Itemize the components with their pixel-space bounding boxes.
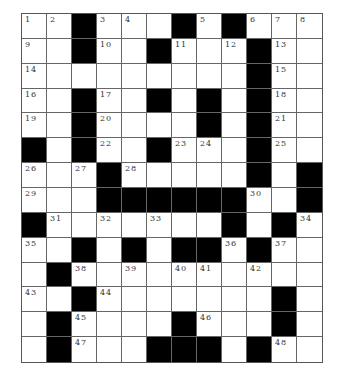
grid-cell[interactable] xyxy=(122,337,147,362)
grid-cell[interactable]: 9 xyxy=(22,39,47,64)
grid-cell[interactable]: 7 xyxy=(272,14,297,39)
grid-cell[interactable] xyxy=(172,287,197,312)
grid-cell[interactable]: 2 xyxy=(47,14,72,39)
grid-cell[interactable] xyxy=(222,263,247,288)
grid-cell[interactable] xyxy=(147,113,172,138)
grid-cell[interactable] xyxy=(222,89,247,114)
grid-cell[interactable] xyxy=(247,213,272,238)
grid-cell[interactable] xyxy=(122,64,147,89)
grid-cell[interactable]: 13 xyxy=(272,39,297,64)
grid-cell[interactable] xyxy=(147,312,172,337)
grid-cell[interactable]: 14 xyxy=(22,64,47,89)
grid-cell[interactable] xyxy=(22,337,47,362)
grid-cell[interactable]: 30 xyxy=(247,188,272,213)
grid-cell[interactable] xyxy=(222,287,247,312)
grid-cell[interactable] xyxy=(172,113,197,138)
grid-cell[interactable] xyxy=(122,287,147,312)
grid-cell[interactable]: 39 xyxy=(122,263,147,288)
grid-cell[interactable] xyxy=(272,263,297,288)
grid-cell[interactable]: 25 xyxy=(272,138,297,163)
grid-cell[interactable]: 36 xyxy=(222,238,247,263)
grid-cell[interactable]: 27 xyxy=(72,163,97,188)
grid-cell[interactable]: 47 xyxy=(72,337,97,362)
grid-cell[interactable] xyxy=(222,163,247,188)
grid-cell[interactable] xyxy=(147,238,172,263)
grid-cell[interactable]: 34 xyxy=(297,213,322,238)
grid-cell[interactable] xyxy=(122,138,147,163)
grid-cell[interactable] xyxy=(72,64,97,89)
grid-cell[interactable] xyxy=(297,138,322,163)
grid-cell[interactable] xyxy=(297,238,322,263)
grid-cell[interactable]: 6 xyxy=(247,14,272,39)
grid-cell[interactable]: 5 xyxy=(197,14,222,39)
grid-cell[interactable]: 44 xyxy=(97,287,122,312)
grid-cell[interactable] xyxy=(222,64,247,89)
grid-cell[interactable]: 22 xyxy=(97,138,122,163)
grid-cell[interactable] xyxy=(97,263,122,288)
grid-cell[interactable] xyxy=(47,89,72,114)
grid-cell[interactable]: 35 xyxy=(22,238,47,263)
grid-cell[interactable] xyxy=(222,138,247,163)
grid-cell[interactable] xyxy=(47,188,72,213)
grid-cell[interactable] xyxy=(197,287,222,312)
grid-cell[interactable] xyxy=(147,14,172,39)
grid-cell[interactable]: 26 xyxy=(22,163,47,188)
grid-cell[interactable] xyxy=(197,163,222,188)
grid-cell[interactable]: 16 xyxy=(22,89,47,114)
grid-cell[interactable] xyxy=(222,312,247,337)
grid-cell[interactable] xyxy=(97,64,122,89)
grid-cell[interactable]: 21 xyxy=(272,113,297,138)
grid-cell[interactable] xyxy=(47,113,72,138)
grid-cell[interactable]: 48 xyxy=(272,337,297,362)
grid-cell[interactable] xyxy=(47,287,72,312)
grid-cell[interactable] xyxy=(197,64,222,89)
grid-cell[interactable]: 15 xyxy=(272,64,297,89)
grid-cell[interactable] xyxy=(47,39,72,64)
grid-cell[interactable] xyxy=(97,312,122,337)
grid-cell[interactable] xyxy=(147,64,172,89)
grid-cell[interactable] xyxy=(122,39,147,64)
grid-cell[interactable]: 11 xyxy=(172,39,197,64)
grid-cell[interactable] xyxy=(22,312,47,337)
grid-cell[interactable]: 38 xyxy=(72,263,97,288)
grid-cell[interactable] xyxy=(297,337,322,362)
grid-cell[interactable] xyxy=(297,287,322,312)
grid-cell[interactable]: 29 xyxy=(22,188,47,213)
grid-cell[interactable]: 1 xyxy=(22,14,47,39)
grid-cell[interactable]: 19 xyxy=(22,113,47,138)
grid-cell[interactable]: 46 xyxy=(197,312,222,337)
grid-cell[interactable] xyxy=(122,213,147,238)
grid-cell[interactable] xyxy=(172,163,197,188)
grid-cell[interactable]: 40 xyxy=(172,263,197,288)
grid-cell[interactable]: 41 xyxy=(197,263,222,288)
grid-cell[interactable]: 45 xyxy=(72,312,97,337)
grid-cell[interactable]: 8 xyxy=(297,14,322,39)
grid-cell[interactable]: 18 xyxy=(272,89,297,114)
grid-cell[interactable]: 24 xyxy=(197,138,222,163)
grid-cell[interactable]: 20 xyxy=(97,113,122,138)
grid-cell[interactable] xyxy=(47,238,72,263)
grid-cell[interactable] xyxy=(197,213,222,238)
grid-cell[interactable] xyxy=(297,312,322,337)
grid-cell[interactable]: 3 xyxy=(97,14,122,39)
grid-cell[interactable] xyxy=(147,263,172,288)
grid-cell[interactable]: 32 xyxy=(97,213,122,238)
grid-cell[interactable] xyxy=(97,238,122,263)
grid-cell[interactable] xyxy=(122,89,147,114)
grid-cell[interactable]: 43 xyxy=(22,287,47,312)
grid-cell[interactable] xyxy=(22,263,47,288)
grid-cell[interactable] xyxy=(122,312,147,337)
grid-cell[interactable] xyxy=(122,113,147,138)
grid-cell[interactable] xyxy=(147,287,172,312)
grid-cell[interactable] xyxy=(272,163,297,188)
grid-cell[interactable]: 10 xyxy=(97,39,122,64)
grid-cell[interactable] xyxy=(297,263,322,288)
grid-cell[interactable]: 12 xyxy=(222,39,247,64)
grid-cell[interactable] xyxy=(222,337,247,362)
grid-cell[interactable] xyxy=(247,312,272,337)
grid-cell[interactable] xyxy=(197,39,222,64)
grid-cell[interactable] xyxy=(172,64,197,89)
grid-cell[interactable]: 23 xyxy=(172,138,197,163)
grid-cell[interactable]: 28 xyxy=(122,163,147,188)
grid-cell[interactable]: 42 xyxy=(247,263,272,288)
